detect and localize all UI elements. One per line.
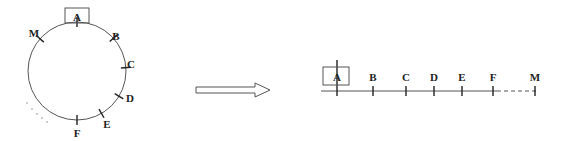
ellipsis-dot	[46, 121, 47, 122]
line-label-e: E	[458, 71, 465, 83]
circle-label-e: E	[103, 118, 110, 130]
circle-label-c: C	[127, 58, 135, 70]
circle-label-a: A	[73, 11, 81, 23]
linear-sequence: ABCDEFM	[321, 60, 541, 96]
right-arrow-icon	[196, 83, 270, 97]
circle-to-line-diagram: ABCDEFM ABCDEFM	[0, 0, 562, 141]
circle-label-b: B	[112, 30, 120, 42]
circle-label-d: D	[126, 92, 134, 104]
line-label-b: B	[369, 71, 377, 83]
line-label-a: A	[333, 71, 341, 83]
ring	[28, 22, 126, 120]
ellipsis-dot	[26, 102, 27, 103]
line-label-f: F	[490, 71, 497, 83]
ellipsis-dot	[31, 108, 32, 109]
circle-label-m: M	[29, 27, 40, 39]
transform-arrow	[196, 83, 270, 97]
ellipsis-dot	[36, 113, 37, 114]
circle-tick-d	[115, 94, 124, 99]
circle-label-f: F	[74, 127, 81, 139]
line-label-c: C	[402, 71, 410, 83]
line-label-m: M	[530, 71, 541, 83]
circular-sequence: ABCDEFM	[26, 8, 135, 139]
ellipsis-dot	[41, 117, 42, 118]
line-label-d: D	[430, 71, 438, 83]
circle-tick-e	[99, 109, 104, 118]
